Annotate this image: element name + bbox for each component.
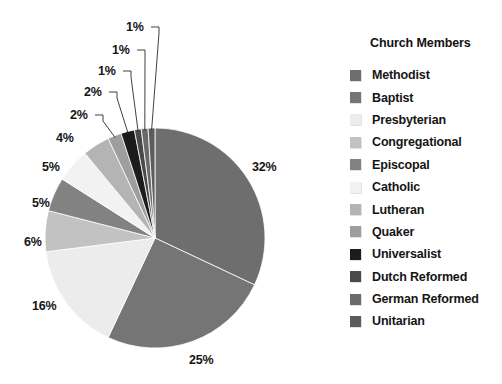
legend-item-universalist[interactable]: Universalist — [341, 243, 499, 265]
pie-slice-percent-label: 32% — [252, 160, 276, 174]
legend-items: MethodistBaptistPresbyterianCongregation… — [341, 64, 499, 333]
legend-item-label: Unitarian — [372, 314, 425, 328]
legend: Church Members MethodistBaptistPresbyter… — [341, 36, 499, 333]
pie-slices-group — [45, 128, 265, 348]
pie-slice-percent-label: 4% — [56, 131, 74, 145]
legend-item-unitarian[interactable]: Unitarian — [341, 310, 499, 332]
leader-line — [137, 50, 145, 131]
pie-chart-figure: 32%25%16%6%5%5%4%2%2%1%1%1% Church Membe… — [0, 0, 502, 384]
pie-slice-percent-label: 16% — [32, 299, 56, 313]
legend-swatch-icon — [350, 137, 361, 148]
legend-item-label: German Reformed — [372, 292, 479, 306]
pie-slice-percent-label: 6% — [24, 235, 42, 249]
legend-swatch-icon — [350, 92, 361, 103]
legend-item-label: Universalist — [372, 247, 441, 261]
legend-item-label: Quaker — [372, 225, 414, 239]
legend-item-label: Catholic — [372, 180, 420, 194]
legend-item-label: Lutheran — [372, 203, 424, 217]
legend-item-quaker[interactable]: Quaker — [341, 221, 499, 243]
pie-slice-percent-label: 5% — [32, 196, 50, 210]
pie-slice-percent-label: 25% — [189, 353, 213, 367]
leader-line — [123, 71, 138, 131]
leader-line — [151, 27, 159, 130]
legend-item-label: Dutch Reformed — [372, 270, 467, 284]
legend-item-catholic[interactable]: Catholic — [341, 176, 499, 198]
pie-slice-percent-label: 1% — [98, 64, 116, 78]
pie-slice-percent-label: 1% — [112, 43, 130, 57]
legend-swatch-icon — [350, 70, 361, 81]
legend-title: Church Members — [370, 36, 499, 50]
legend-item-dutch-reformed[interactable]: Dutch Reformed — [341, 266, 499, 288]
legend-swatch-icon — [350, 204, 361, 215]
legend-swatch-icon — [350, 316, 361, 327]
pie-slice-percent-label: 2% — [70, 108, 88, 122]
pie-slice-percent-label: 2% — [84, 85, 102, 99]
legend-swatch-icon — [350, 226, 361, 237]
legend-item-episcopal[interactable]: Episcopal — [341, 154, 499, 176]
legend-item-german-reformed[interactable]: German Reformed — [341, 288, 499, 310]
legend-swatch-icon — [350, 114, 361, 125]
legend-item-lutheran[interactable]: Lutheran — [341, 198, 499, 220]
leader-line — [95, 115, 115, 138]
legend-swatch-icon — [350, 271, 361, 282]
legend-item-methodist[interactable]: Methodist — [341, 64, 499, 86]
legend-swatch-icon — [350, 159, 361, 170]
legend-item-label: Congregational — [372, 135, 462, 149]
legend-item-label: Episcopal — [372, 158, 430, 172]
legend-item-label: Presbyterian — [372, 113, 446, 127]
pie-slice-percent-label: 1% — [126, 20, 144, 34]
legend-swatch-icon — [350, 294, 361, 305]
legend-item-label: Methodist — [372, 68, 430, 82]
legend-item-presbyterian[interactable]: Presbyterian — [341, 109, 499, 131]
legend-item-baptist[interactable]: Baptist — [341, 86, 499, 108]
pie-slice-percent-label: 5% — [42, 160, 60, 174]
legend-swatch-icon — [350, 182, 361, 193]
leader-line — [109, 92, 128, 133]
legend-swatch-icon — [350, 249, 361, 260]
legend-item-congregational[interactable]: Congregational — [341, 131, 499, 153]
legend-item-label: Baptist — [372, 91, 413, 105]
